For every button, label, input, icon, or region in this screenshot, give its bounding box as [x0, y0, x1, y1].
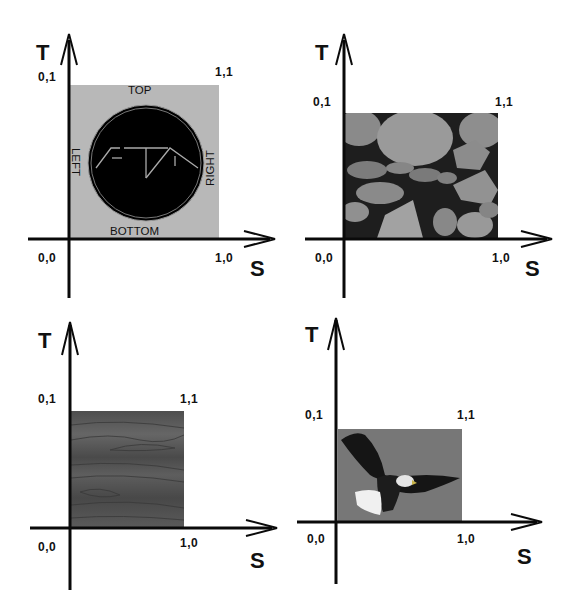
edge-label-right: RIGHT — [204, 150, 216, 186]
corner-label-origin: 0,0 — [307, 532, 325, 546]
corner-label-origin: 0,0 — [38, 540, 56, 554]
edge-label-top: TOP — [128, 84, 151, 96]
s-axis-label: S — [250, 548, 265, 574]
logo-panel: TOP BOTTOM LEFT RIGHT T S 0,1 1,1 0,0 1,… — [0, 0, 290, 300]
stone-panel: T S 0,1 1,1 0,0 1,0 — [285, 0, 575, 300]
t-axis-label: T — [36, 40, 49, 66]
stone-texture — [337, 110, 503, 239]
t-axis-label: T — [305, 322, 318, 348]
corner-label-origin: 0,0 — [38, 251, 56, 265]
corner-label-top-left: 0,1 — [38, 70, 56, 84]
corner-label-bottom-right: 1,0 — [492, 251, 510, 265]
edge-label-bottom: BOTTOM — [110, 225, 159, 237]
t-axis-label: T — [38, 328, 51, 354]
corner-label-top-left: 0,1 — [305, 408, 323, 422]
corner-label-top-right: 1,1 — [180, 392, 198, 406]
s-axis-label: S — [525, 256, 540, 282]
corner-label-bottom-right: 1,0 — [180, 536, 198, 550]
s-axis-label: S — [517, 544, 532, 570]
eagle-panel: T S 0,1 1,1 0,0 1,0 — [285, 300, 575, 605]
corner-label-top-left: 0,1 — [38, 392, 56, 406]
edge-label-left: LEFT — [70, 148, 82, 176]
corner-label-bottom-right: 1,0 — [457, 532, 475, 546]
corner-label-top-left: 0,1 — [313, 95, 331, 109]
corner-label-top-right: 1,1 — [457, 408, 475, 422]
wood-panel: T S 0,1 1,1 0,0 1,0 — [0, 300, 290, 605]
corner-label-origin: 0,0 — [315, 251, 333, 265]
corner-label-top-right: 1,1 — [215, 65, 233, 79]
corner-label-top-right: 1,1 — [495, 95, 513, 109]
corner-label-bottom-right: 1,0 — [215, 251, 233, 265]
s-axis-label: S — [250, 256, 265, 282]
t-axis-label: T — [315, 40, 328, 66]
wood-texture — [71, 411, 184, 527]
